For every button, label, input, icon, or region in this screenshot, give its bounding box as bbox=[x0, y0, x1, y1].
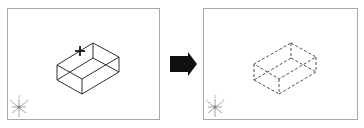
transition-arrow-icon bbox=[170, 52, 197, 76]
ucs-axis-icon: Z Y X bbox=[206, 95, 225, 117]
svg-text:X: X bbox=[222, 99, 225, 103]
svg-text:Z: Z bbox=[18, 95, 21, 99]
svg-text:Z: Z bbox=[214, 95, 217, 99]
ucs-axis-icon: Z Y X bbox=[10, 95, 29, 117]
pick-cursor-icon bbox=[75, 46, 85, 56]
svg-text:X: X bbox=[26, 99, 29, 103]
box-dashed-selected[interactable] bbox=[254, 43, 316, 94]
box-solid[interactable] bbox=[57, 43, 119, 94]
